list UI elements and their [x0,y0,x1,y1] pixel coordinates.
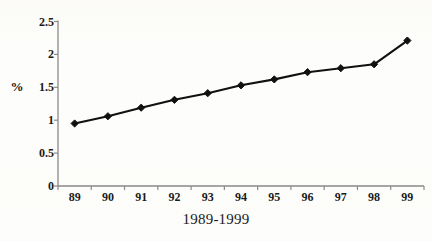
x-tick-label: 97 [328,191,354,204]
x-tick-label: 94 [228,191,254,204]
x-tick-label: 93 [195,191,221,204]
x-tick-label: 98 [361,191,387,204]
x-tick-label: 95 [261,191,287,204]
x-tick-label: 92 [161,191,187,204]
x-tick-label: 99 [394,191,420,204]
x-tick-label: 90 [95,191,121,204]
x-axis-tick-labels: 8990919293949596979899 [0,0,432,241]
x-tick-label: 89 [62,191,88,204]
chart-screenshot: % 00.511.522.5 8990919293949596979899 19… [0,0,432,241]
x-tick-label: 91 [128,191,154,204]
x-axis-title: 1989-1999 [0,211,432,228]
x-tick-label: 96 [295,191,321,204]
